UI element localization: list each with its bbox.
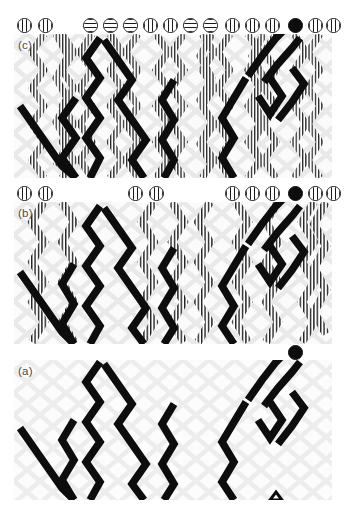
particle-marker-solid (288, 186, 303, 201)
particle-marker-vbar (143, 18, 158, 33)
particle-marker-hbar (103, 18, 118, 33)
particle-marker-vbar (308, 18, 323, 33)
particle-marker-hbar (123, 18, 138, 33)
particle-marker-solid (288, 18, 303, 33)
particle-marker-vbar (149, 186, 164, 201)
lattice-panel-a: (a) (14, 360, 332, 500)
particle-marker-vbar (38, 186, 53, 201)
particle-marker-vbar (17, 186, 32, 201)
particle-marker-vbar (308, 186, 323, 201)
particle-marker-vbar (17, 18, 32, 33)
figure-root: (c) (0, 0, 349, 513)
particle-marker-vbar (225, 186, 240, 201)
particle-marker-vbar (265, 186, 280, 201)
particle-marker-vbar (225, 18, 240, 33)
particle-marker-vbar (265, 18, 280, 33)
lattice-svg-b (14, 202, 332, 344)
particle-marker-vbar (38, 18, 53, 33)
lattice-panel-c: (c) (14, 34, 332, 178)
particle-marker-hbar (203, 18, 218, 33)
particle-marker-vbar (128, 186, 143, 201)
particle-marker-solid (288, 345, 303, 360)
particle-marker-vbar (326, 186, 341, 201)
particle-marker-vbar (245, 186, 260, 201)
lattice-panel-b: (b) (14, 202, 332, 344)
particle-marker-vbar (245, 18, 260, 33)
particle-marker-vbar (163, 18, 178, 33)
particle-marker-hbar (83, 18, 98, 33)
particle-marker-hbar (183, 18, 198, 33)
lattice-svg-c (14, 34, 332, 178)
lattice-svg-a (14, 360, 332, 500)
particle-marker-vbar (326, 18, 341, 33)
